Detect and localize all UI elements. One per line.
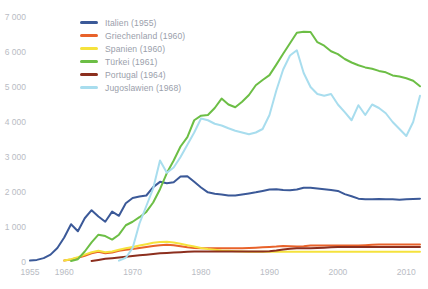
legend-item-label: Portugal (1964) [105,70,166,80]
line-chart: 01 0002 0003 0004 0005 0006 0007 000 195… [0,0,428,289]
x-axis-tick-labels: 1955196019701980199020002010 [21,267,416,277]
chart-legend: Italien (1955)Griechenland (1960)Spanien… [80,17,185,93]
legend-item[interactable]: Griechenland (1960) [80,30,185,41]
legend-color-swatch [80,47,98,50]
chart-canvas: 01 0002 0003 0004 0005 0006 0007 000 195… [0,0,428,289]
legend-item[interactable]: Spanien (1960) [80,43,185,54]
x-tick-label: 2000 [328,267,347,277]
legend-item-label: Türkei (1961) [105,57,157,67]
y-tick-label: 1 000 [5,222,27,232]
legend-color-swatch [80,73,98,76]
x-tick-label: 2010 [397,267,416,277]
x-tick-label: 1990 [260,267,279,277]
legend-item[interactable]: Italien (1955) [80,17,185,28]
x-tick-label: 1980 [192,267,211,277]
x-tick-label: 1955 [21,267,40,277]
y-tick-label: 3 000 [5,152,27,162]
legend-item-label: Griechenland (1960) [105,31,185,41]
legend-color-swatch [80,21,98,24]
series-line [92,247,420,261]
legend-item[interactable]: Türkei (1961) [80,56,185,67]
y-tick-label: 6 000 [5,47,27,57]
legend-item-label: Italien (1955) [105,18,157,28]
legend-color-swatch [80,86,98,89]
x-tick-label: 1960 [55,267,74,277]
x-tick-label: 1970 [123,267,142,277]
legend-item[interactable]: Jugoslawien (1968) [80,82,185,93]
y-tick-label: 2 000 [5,187,27,197]
legend-item[interactable]: Portugal (1964) [80,69,185,80]
y-tick-label: 7 000 [5,12,27,22]
legend-item-label: Jugoslawien (1968) [105,83,181,93]
legend-color-swatch [80,60,98,63]
y-tick-label: 0 [21,257,26,267]
legend-color-swatch [80,34,98,37]
y-tick-label: 4 000 [5,117,27,127]
y-axis-tick-labels: 01 0002 0003 0004 0005 0006 0007 000 [5,12,27,267]
y-tick-label: 5 000 [5,82,27,92]
legend-item-label: Spanien (1960) [105,44,165,54]
